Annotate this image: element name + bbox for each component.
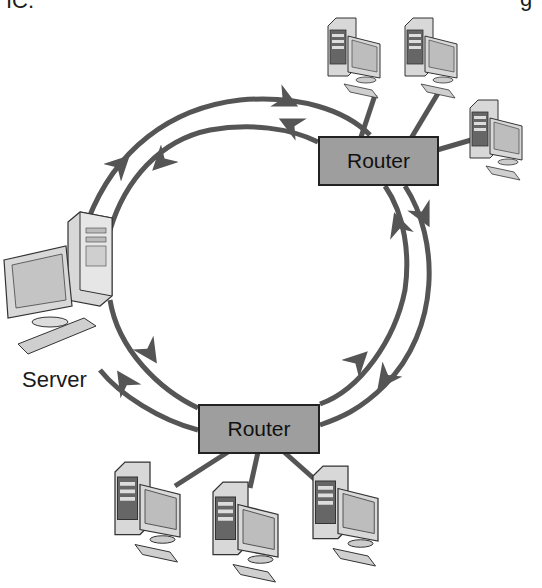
client-computer-icon — [313, 466, 378, 566]
router-top-box: Router — [318, 136, 439, 186]
server-computer-icon — [4, 212, 112, 354]
router-label: Router — [227, 417, 290, 441]
cropped-caption-text: g — [520, 0, 532, 12]
client-computer-icon — [470, 100, 522, 180]
router-label: Router — [347, 149, 410, 173]
server-label: Server — [22, 367, 87, 393]
client-computer-icon — [213, 482, 278, 582]
router-bottom-box: Router — [198, 404, 320, 454]
client-computer-icon — [328, 18, 380, 98]
client-computer-icon — [115, 462, 180, 562]
client-computer-icon — [405, 18, 457, 98]
cropped-caption-text: IC. — [6, 0, 34, 14]
network-ring-diagram — [0, 0, 542, 588]
